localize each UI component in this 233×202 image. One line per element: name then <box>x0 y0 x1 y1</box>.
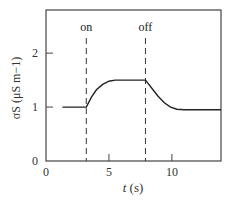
x-axis-ticks: 0510 <box>43 154 178 179</box>
x-tick-label: 0 <box>43 165 49 179</box>
x-tick-label: 10 <box>166 165 178 179</box>
y-tick-label: 2 <box>32 46 38 60</box>
conductivity-curve <box>62 80 221 110</box>
event-label-off: off <box>139 20 153 34</box>
x-axis-label: t (s) <box>123 180 144 195</box>
y-axis-ticks: 012 <box>32 46 53 168</box>
chart: 012 0510 onoff t (s) σS (μS m−1) <box>0 0 233 202</box>
y-axis-label: σS (μS m−1) <box>9 57 23 119</box>
y-tick-label: 0 <box>32 154 38 168</box>
x-tick-label: 5 <box>106 165 112 179</box>
event-lines: onoff <box>80 20 152 161</box>
plot-frame <box>46 10 221 161</box>
event-label-on: on <box>80 20 92 34</box>
y-tick-label: 1 <box>32 100 38 114</box>
